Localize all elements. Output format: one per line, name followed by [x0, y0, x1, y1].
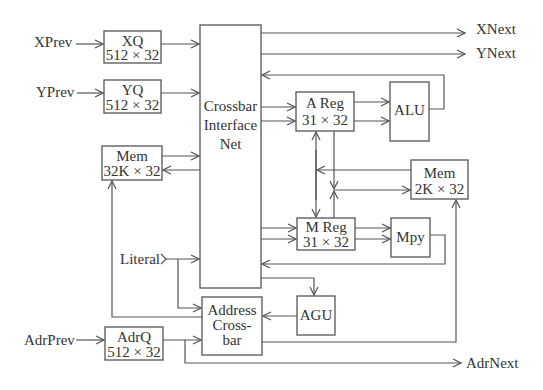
block-addrxbar-line3: bar	[222, 332, 241, 348]
block-mem2k-size: 2K × 32	[415, 181, 464, 197]
block-mpy: Mpy	[391, 218, 430, 257]
block-mreg: M Reg 31 × 32	[297, 218, 355, 250]
block-mem32k-label: Mem	[116, 148, 148, 164]
block-crossbar-line1: Crossbar	[204, 98, 257, 114]
port-adrprev: AdrPrev	[24, 332, 75, 348]
port-xprev: XPrev	[34, 34, 73, 50]
block-mreg-label: M Reg	[305, 219, 347, 235]
port-literal: Literal	[120, 251, 160, 267]
block-adrq: AdrQ 512 × 32	[105, 327, 163, 360]
block-areg-label: A Reg	[306, 95, 344, 111]
block-yq-label: YQ	[122, 82, 144, 98]
block-adrq-label: AdrQ	[117, 329, 151, 345]
wire-literal-addrxbar	[178, 259, 201, 308]
port-adrnext: AdrNext	[466, 355, 519, 371]
port-yprev: YPrev	[36, 84, 75, 100]
literal-chevron-icon	[161, 254, 166, 264]
block-mpy-label: Mpy	[396, 229, 425, 245]
block-areg-size: 31 × 32	[302, 112, 348, 128]
port-ynext: YNext	[476, 45, 517, 61]
block-alu: ALU	[390, 82, 429, 141]
wire-crossbar-agu	[261, 278, 314, 295]
block-mreg-size: 31 × 32	[303, 234, 349, 250]
block-agu: AGU	[297, 296, 335, 335]
block-addrxbar-line1: Address	[207, 302, 256, 318]
block-mem2k: Mem 2K × 32	[411, 160, 468, 199]
block-adrq-size: 512 × 32	[107, 344, 160, 360]
block-addrxbar-line2: Cross-	[212, 317, 251, 333]
block-yq-size: 512 × 32	[106, 97, 159, 113]
block-crossbar: Crossbar Interface Net	[200, 25, 261, 288]
block-xq: XQ 512 × 32	[104, 31, 161, 63]
block-areg: A Reg 31 × 32	[296, 92, 354, 131]
port-xnext: XNext	[476, 21, 517, 37]
block-mem32k-size: 32K × 32	[104, 163, 161, 179]
block-crossbar-line3: Net	[220, 136, 242, 152]
block-alu-label: ALU	[394, 102, 425, 118]
wire-addrxbar-mem32k	[112, 181, 202, 317]
block-mem32k: Mem 32K × 32	[102, 146, 162, 180]
block-mem2k-label: Mem	[424, 165, 456, 181]
block-address-crossbar: Address Cross- bar	[202, 297, 262, 355]
block-diagram: XQ 512 × 32 YQ 512 × 32 Mem 32K × 32 Cro…	[0, 0, 543, 390]
block-crossbar-line2: Interface	[204, 117, 258, 133]
block-agu-label: AGU	[300, 307, 333, 323]
block-xq-size: 512 × 32	[106, 47, 159, 63]
block-yq: YQ 512 × 32	[104, 80, 161, 113]
